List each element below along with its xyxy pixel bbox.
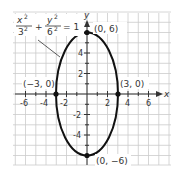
eq-rhs: = 1 (63, 22, 79, 32)
eq-y-numerator: y (46, 15, 53, 25)
x-tick-label: -4 (40, 99, 48, 108)
x-axis-arrow-icon (156, 91, 163, 97)
x-tick-label: 6 (146, 99, 151, 108)
eq-y-denominator: 6 (47, 27, 53, 37)
eq-x-denominator: 3 (18, 27, 24, 37)
y-tick-label: -4 (73, 131, 81, 140)
point-left (53, 91, 58, 96)
label-bottom-point: (0, −6) (96, 156, 128, 166)
eq-plus: + (35, 22, 43, 32)
label-right-point: (3, 0) (120, 79, 144, 89)
label-top-point: (0, 6) (94, 24, 118, 34)
y-tick-label: 4 (78, 49, 83, 58)
eq-x-numerator: x (16, 15, 23, 25)
x-tick-label: 4 (125, 99, 130, 108)
graph-canvas: x 2 3 2 + y 2 6 2 = 1 y x -6 -4 -2 2 4 6… (0, 0, 181, 173)
eq-x-den-exponent: 2 (24, 25, 28, 32)
x-tick-label: -2 (60, 99, 68, 108)
eq-y-den-exponent: 2 (54, 25, 58, 32)
y-tick-label: -2 (73, 111, 81, 120)
x-tick-label: -6 (20, 99, 28, 108)
y-tick-label: 2 (78, 70, 83, 79)
y-axis (84, 20, 90, 165)
eq-x-exponent: 2 (24, 13, 28, 20)
x-tick-label: 2 (105, 99, 110, 108)
x-axis (15, 91, 163, 97)
x-axis-label: x (163, 89, 170, 99)
y-axis-label: y (83, 10, 90, 20)
point-top (84, 30, 89, 35)
y-axis-arrow-icon (84, 20, 90, 27)
label-left-point: (−3, 0) (23, 79, 55, 89)
eq-y-exponent: 2 (54, 13, 58, 20)
point-right (115, 91, 120, 96)
point-bottom (84, 153, 89, 158)
ellipse-graph: x 2 3 2 + y 2 6 2 = 1 y x -6 -4 -2 2 4 6… (0, 0, 181, 173)
